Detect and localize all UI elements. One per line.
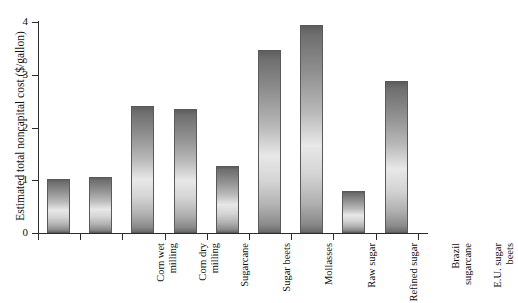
x-label-line: Sugar beets	[281, 243, 293, 303]
bar-sugar-beets	[174, 109, 197, 233]
x-tick-6	[291, 234, 292, 240]
x-label-line: E.U. sugar	[492, 243, 504, 303]
y-axis-line	[38, 21, 39, 234]
x-label-refined-sugar: Refined sugar	[408, 243, 434, 303]
y-tick-1	[32, 180, 38, 181]
y-tick-2	[32, 128, 38, 129]
x-label-brazil-sugarcane: Brazilsugarcane	[450, 243, 476, 303]
bar-refined-sugar	[300, 25, 323, 233]
x-label-line: Brazil	[450, 243, 462, 303]
x-label-sugarcane: Sugarcane	[239, 243, 265, 303]
y-tick-label-2: 2	[8, 122, 28, 133]
x-label-line: Refined sugar	[408, 243, 420, 303]
x-axis-line	[38, 233, 428, 234]
x-label-line: Sugarcane	[239, 243, 251, 303]
y-tick-label-3: 3	[8, 69, 28, 80]
bar-raw-sugar	[258, 50, 281, 233]
x-tick-3	[165, 234, 166, 240]
x-label-corn-dry-milling: Corn drymilling	[197, 243, 223, 303]
x-tick-9	[418, 234, 419, 240]
y-tick-4	[32, 22, 38, 23]
x-tick-0	[38, 234, 39, 240]
x-label-e-u-sugar-beets: E.U. sugarbeets	[492, 243, 518, 303]
x-tick-4	[207, 234, 208, 240]
bar-brazil-sugarcane	[342, 191, 365, 233]
x-tick-5	[249, 234, 250, 240]
x-tick-8	[376, 234, 377, 240]
y-tick-label-4: 4	[8, 16, 28, 27]
x-label-line: Mollasses	[323, 243, 335, 303]
bar-e-u-sugar-beets	[385, 81, 408, 233]
x-label-line: beets	[504, 243, 516, 303]
x-label-raw-sugar: Raw sugar	[366, 243, 392, 303]
x-label-line: Corn dry	[197, 243, 209, 303]
x-label-line: milling	[166, 243, 178, 303]
y-tick-label-0: 0	[8, 227, 28, 238]
x-label-mollasses: Mollasses	[323, 243, 349, 303]
y-tick-3	[32, 75, 38, 76]
x-label-sugar-beets: Sugar beets	[281, 243, 307, 303]
bar-mollasses	[216, 166, 239, 233]
x-label-corn-wet-milling: Corn wetmilling	[155, 243, 181, 303]
bar-corn-wet-milling	[47, 179, 70, 233]
x-label-line: Raw sugar	[366, 243, 378, 303]
x-label-line: Corn wet	[155, 243, 167, 303]
y-tick-label-1: 1	[8, 174, 28, 185]
x-tick-7	[333, 234, 334, 240]
bar-corn-dry-milling	[89, 177, 112, 233]
x-label-line: sugarcane	[461, 243, 473, 303]
x-label-line: milling	[208, 243, 220, 303]
x-tick-1	[80, 234, 81, 240]
bar-sugarcane	[131, 106, 154, 233]
x-tick-2	[122, 234, 123, 240]
